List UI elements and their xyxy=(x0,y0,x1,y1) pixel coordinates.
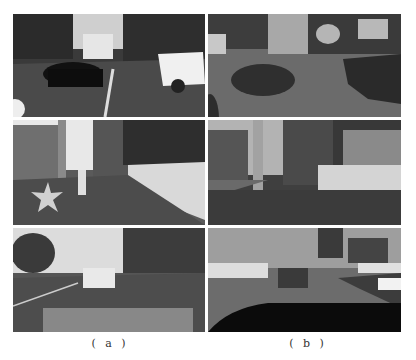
column-label-b: ( b ) xyxy=(278,337,338,350)
column-label-a: ( a ) xyxy=(80,337,140,350)
image-row2-rendered xyxy=(13,120,205,225)
image-row1-segmentation xyxy=(208,14,401,117)
image-row3-segmentation xyxy=(208,228,401,332)
image-row3-rendered xyxy=(13,228,205,332)
image-row2-segmentation xyxy=(208,120,401,225)
image-row1-rendered xyxy=(13,14,205,117)
